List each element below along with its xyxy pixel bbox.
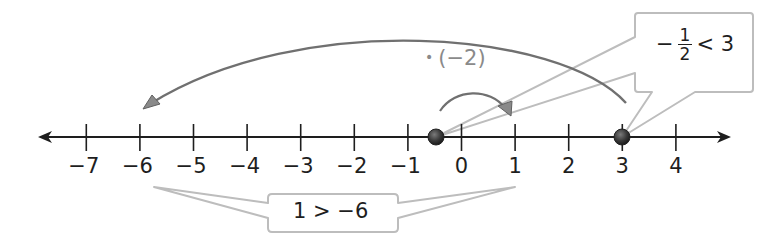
- tick-label: 3: [616, 154, 629, 178]
- tick-label: −4: [229, 154, 260, 178]
- tick-label: −1: [390, 154, 421, 178]
- relation: < 3: [696, 32, 734, 56]
- tick-label: 4: [669, 154, 682, 178]
- minus-sign: −: [656, 32, 674, 56]
- tick-label: 0: [455, 154, 468, 178]
- tick-label: −6: [122, 154, 153, 178]
- tick-label: −7: [68, 154, 99, 178]
- tick-label: 2: [562, 154, 575, 178]
- tick-label: −2: [336, 154, 367, 178]
- tick-label: 1: [508, 154, 521, 178]
- tick-label: −3: [283, 154, 314, 178]
- arrowhead-icon: [143, 95, 160, 109]
- fraction-denominator: 2: [678, 45, 693, 63]
- fraction: 12: [678, 26, 693, 63]
- hint-neg2: •(−2): [425, 46, 486, 70]
- point-neg-half: [428, 129, 444, 145]
- number-line-diagram: −7−6−5−4−3−2−101234 •(−2) −12< 3 1 > −6: [0, 0, 778, 238]
- bullet-icon: •: [425, 49, 433, 65]
- hint-text: (−2): [438, 46, 485, 70]
- top-callout-text: −12< 3: [656, 26, 734, 63]
- tick-label: −5: [176, 154, 207, 178]
- bottom-callout-text: 1 > −6: [293, 199, 368, 223]
- fraction-numerator: 1: [678, 26, 693, 45]
- point-3: [614, 129, 630, 145]
